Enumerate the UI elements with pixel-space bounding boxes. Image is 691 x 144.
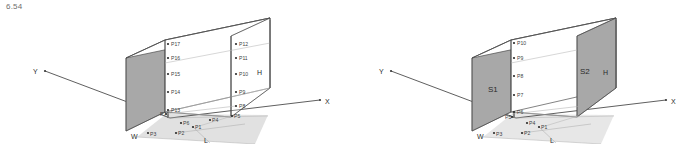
x-axis-tip-left [319,99,321,101]
dimension-label-w-left: W [131,133,138,140]
point-label-p2: P2 [524,130,530,136]
point-marker [235,43,237,45]
point-marker [235,57,237,59]
point-label-p10: P10 [239,71,248,77]
diagram-panel-right: Y X Z S1 S2 [346,0,691,144]
point-marker [167,91,169,93]
point-marker [167,109,169,111]
dimension-label-h-left: H [257,69,262,76]
point-label-p2: P2 [178,130,184,136]
point-marker [175,132,177,134]
point-label-p8: P8 [517,73,523,79]
face-label-s2: S2 [580,67,590,76]
point-marker [192,126,194,128]
point-label-p6: P6 [517,109,523,115]
point-marker [513,57,515,59]
point-marker [235,105,237,107]
diagram-panel-left: Y X Z [0,0,345,144]
point-marker [513,94,515,96]
dimension-label-l-left: L [204,137,208,144]
point-label-p1: P1 [195,124,201,130]
point-label-p1: P1 [541,124,547,130]
right-diagram-svg: Y X Z S1 S2 [346,0,691,144]
point-label-p9: P9 [239,89,245,95]
left-diagram-svg: Y X Z [0,0,345,144]
face-label-s1: S1 [488,85,498,94]
point-marker [167,43,169,45]
point-marker [513,75,515,77]
point-marker [180,122,182,124]
point-marker [235,91,237,93]
axis-label-x-left: X [325,98,330,105]
y-axis-tip-right [390,70,392,72]
axis-label-x-right: X [671,98,676,105]
point-label-p4: P4 [212,117,218,123]
dimension-label-l-right: L [550,137,554,144]
point-label-p14: P14 [171,89,180,95]
point-label-p17: P17 [171,41,180,47]
point-label-p10: P10 [517,40,526,46]
point-marker [167,73,169,75]
axis-label-y-left: Y [33,68,38,75]
point-marker [209,119,211,121]
point-marker [231,115,233,117]
point-label-p8: P8 [239,103,245,109]
point-marker [235,73,237,75]
figure-root: 6.54 Y X Z [0,0,691,144]
point-marker [521,132,523,134]
point-label-p7: P7 [160,111,166,117]
point-marker [493,132,495,134]
y-axis-tip-left [44,70,46,72]
point-label-p5: P5 [234,113,240,119]
point-label-p5: P5 [505,114,511,120]
point-label-p6: P6 [183,120,189,126]
point-label-p3: P3 [496,131,502,137]
point-marker [526,122,528,124]
x-axis-tip-right [665,99,667,101]
point-marker [538,126,540,128]
point-label-p9: P9 [517,55,523,61]
dimension-label-w-right: W [477,133,484,140]
point-label-p13: P13 [171,107,180,113]
point-marker [147,132,149,134]
point-marker [167,57,169,59]
dimension-label-h-right: H [603,69,608,76]
point-label-p11: P11 [239,55,248,61]
point-label-p7: P7 [517,92,523,98]
point-marker [513,111,515,113]
axis-label-y-right: Y [379,68,384,75]
point-label-p4: P4 [529,120,535,126]
point-label-p3: P3 [150,131,156,137]
point-label-p15: P15 [171,71,180,77]
point-marker [513,42,515,44]
point-label-p16: P16 [171,55,180,61]
point-label-p12: P12 [239,41,248,47]
